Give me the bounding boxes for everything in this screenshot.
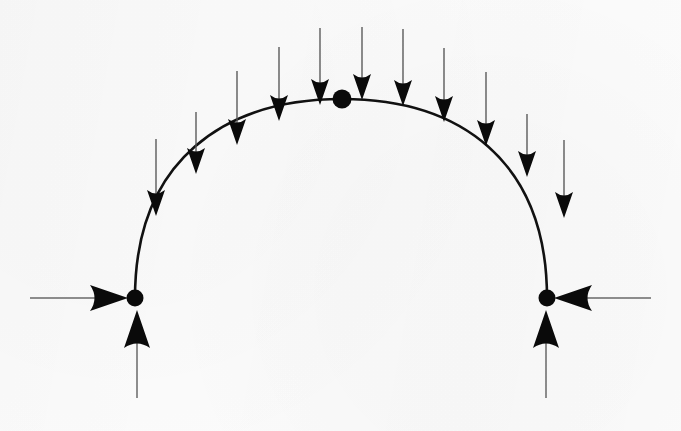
arch-free-body-diagram [0, 0, 681, 431]
paper-background [0, 0, 681, 431]
left-support-node [127, 290, 144, 307]
crown-node [333, 90, 352, 109]
diagram-canvas [0, 0, 681, 431]
right-support-node [539, 290, 556, 307]
